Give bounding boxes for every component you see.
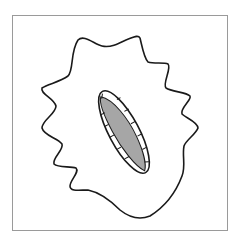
inner-gray-region bbox=[95, 91, 152, 176]
diagram-canvas bbox=[0, 0, 235, 243]
